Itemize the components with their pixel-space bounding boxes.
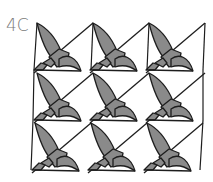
crane-tessellation — [0, 0, 213, 182]
crane-grid — [31, 23, 205, 173]
